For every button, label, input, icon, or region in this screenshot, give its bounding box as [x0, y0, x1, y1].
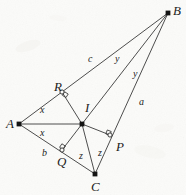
figure-canvas	[0, 0, 186, 195]
segment-label-x-lower: x	[40, 128, 44, 138]
touch-point-Q	[60, 148, 64, 152]
segment-label-c: c	[88, 54, 92, 64]
segment-label-x-upper: x	[40, 105, 44, 115]
geometry-figure: A B C I R P Q x x y y z z a b c	[0, 0, 186, 195]
segment-label-z-left: z	[79, 151, 83, 161]
vertex-label-A: A	[6, 117, 14, 130]
touch-point-label-Q: Q	[57, 155, 66, 168]
segment-label-y-upper: y	[115, 54, 119, 64]
vertex-label-I: I	[85, 101, 89, 114]
vertex-dot-I	[80, 122, 85, 127]
touch-point-label-P: P	[116, 140, 124, 153]
segment-label-b: b	[42, 148, 47, 158]
touch-point-P	[108, 133, 112, 137]
vertex-dot-B	[166, 11, 171, 16]
segment-label-y-lower: y	[133, 69, 137, 79]
vertex-label-B: B	[173, 4, 181, 17]
vertex-dot-C	[93, 172, 98, 177]
touch-point-label-R: R	[54, 80, 62, 93]
vertex-label-C: C	[91, 180, 100, 193]
segment-label-z-right: z	[98, 148, 102, 158]
vertex-dot-A	[17, 122, 22, 127]
segment-label-a: a	[139, 97, 144, 107]
